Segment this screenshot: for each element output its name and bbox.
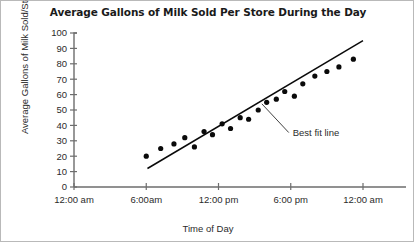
y-axis-tick-label: 80 <box>56 58 67 69</box>
data-point <box>292 94 297 99</box>
data-point <box>158 146 163 151</box>
y-axis-tick-label: 100 <box>51 27 67 38</box>
y-axis-tick-label: 60 <box>56 89 67 100</box>
y-axis-tick-label: 10 <box>56 166 67 177</box>
data-point <box>171 141 176 146</box>
y-axis-tick-label: 40 <box>56 120 67 131</box>
data-point <box>264 100 269 105</box>
data-point <box>351 57 356 62</box>
data-point <box>228 126 233 131</box>
chart-frame: Average Gallons of Milk Sold Per Store D… <box>0 0 414 242</box>
best-fit-line <box>147 41 363 169</box>
data-point <box>144 154 149 159</box>
data-point <box>210 132 215 137</box>
data-point <box>220 121 225 126</box>
data-point <box>324 69 329 74</box>
y-axis-tick-group: 1009080706050403020100 <box>51 27 77 192</box>
best-fit-line-annotation-label: Best fit line <box>293 127 339 138</box>
scatter-plot: 1009080706050403020100 12:00 am6:00am12:… <box>1 1 414 242</box>
data-point <box>274 97 279 102</box>
y-axis-tick-label: 20 <box>56 151 67 162</box>
data-point <box>246 117 251 122</box>
data-point <box>336 64 341 69</box>
y-axis-tick-label: 50 <box>56 104 67 115</box>
x-axis-tick-label: 6:00am <box>130 194 162 205</box>
x-axis-tick-label: 6:00 pm <box>274 194 308 205</box>
data-point <box>182 135 187 140</box>
data-point <box>192 144 197 149</box>
data-point <box>312 74 317 79</box>
annotation-leader-line <box>262 104 289 133</box>
y-axis-tick-label: 30 <box>56 135 67 146</box>
data-point <box>282 89 287 94</box>
x-axis-tick-label: 12:00 am <box>343 194 383 205</box>
y-axis-tick-label: 90 <box>56 43 67 54</box>
data-point <box>256 107 261 112</box>
x-axis-tick-label: 12:00 am <box>54 194 94 205</box>
annotation-group: Best fit line <box>262 104 339 138</box>
data-point <box>238 115 243 120</box>
y-axis-tick-label: 70 <box>56 74 67 85</box>
data-point <box>300 81 305 86</box>
x-axis-tick-label: 12:00 pm <box>199 194 239 205</box>
data-point <box>201 129 206 134</box>
y-axis-tick-label: 0 <box>62 181 67 192</box>
